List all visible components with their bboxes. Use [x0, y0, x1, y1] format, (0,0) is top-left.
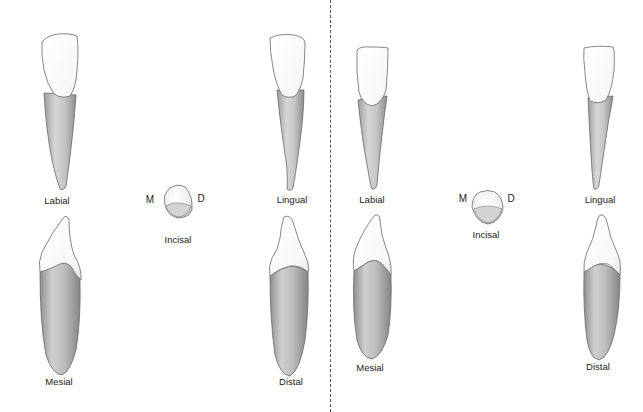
right-distal-label: Distal [586, 362, 610, 372]
right-incisal-mesial-marker: M [459, 194, 467, 204]
right-labial-label: Labial [359, 195, 384, 205]
left-lingual-tooth-icon [270, 34, 305, 190]
left-incisal-tooth-icon [164, 185, 192, 218]
right-distal-tooth-icon [584, 215, 621, 360]
right-lingual-label: Lingual [585, 195, 616, 205]
left-incisal-distal-marker: D [197, 194, 204, 204]
teeth-illustrations [0, 0, 643, 412]
right-labial-tooth-icon [357, 47, 388, 189]
left-mesial-label: Mesial [45, 377, 72, 387]
right-incisal-tooth-icon [472, 191, 503, 225]
right-lingual-tooth-icon [584, 46, 615, 189]
left-incisal-mesial-marker: M [146, 195, 154, 205]
right-incisal-distal-marker: D [507, 194, 514, 204]
right-mesial-label: Mesial [356, 363, 383, 373]
left-distal-tooth-icon [269, 216, 308, 376]
left-mesial-tooth-icon [39, 216, 81, 375]
left-lingual-label: Lingual [277, 195, 308, 205]
right-incisal-label: Incisal [473, 230, 500, 240]
left-incisal-label: Incisal [165, 235, 192, 245]
dental-figure: Labial Lingual Mesial Distal M D Incisal… [0, 0, 643, 412]
panel-divider [330, 0, 331, 412]
left-labial-label: Labial [44, 196, 69, 206]
right-mesial-tooth-icon [353, 215, 391, 359]
left-labial-tooth-icon [42, 34, 78, 190]
left-distal-label: Distal [279, 377, 303, 387]
